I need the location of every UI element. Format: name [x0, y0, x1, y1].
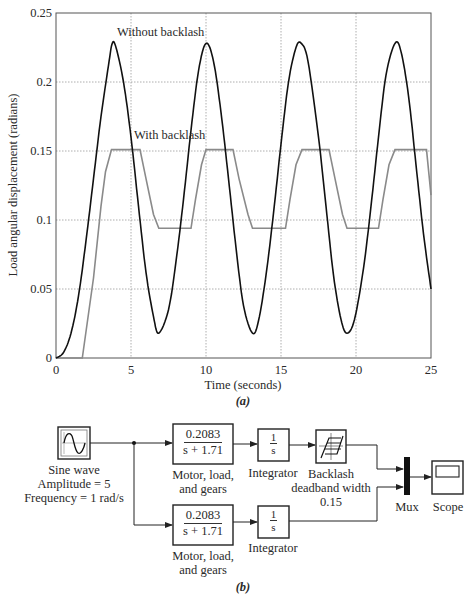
tf-bottom-numerator: 0.2083: [184, 508, 222, 524]
tf-top-label-2: and gears: [179, 482, 227, 496]
tf-top-fraction: 0.2083 s + 1.71: [173, 427, 233, 457]
backlash-label-1: Backlash: [308, 467, 354, 481]
integrator-top-numerator: 1: [270, 431, 278, 444]
tf-bottom-label-1: Motor, load,: [172, 549, 234, 563]
scope-block[interactable]: [432, 461, 463, 494]
tf-top-label-1: Motor, load,: [172, 468, 234, 482]
tf-top-denominator: s + 1.71: [183, 443, 223, 457]
sine-wave-block[interactable]: [58, 427, 90, 459]
sine-label-3: Frequency = 1 rad/s: [24, 491, 124, 505]
tf-top-numerator: 0.2083: [184, 427, 222, 443]
integrator-bottom-numerator: 1: [270, 508, 278, 521]
backlash-block[interactable]: [316, 430, 346, 463]
integrator-top-denominator: s: [271, 444, 275, 456]
scope-label: Scope: [433, 500, 464, 514]
sine-label-2: Amplitude = 5: [37, 477, 110, 491]
integrator-bottom-label: Integrator: [248, 541, 297, 555]
integrator-top-label: Integrator: [248, 466, 297, 480]
tf-bottom-fraction: 0.2083 s + 1.71: [173, 508, 233, 538]
backlash-label-2: deadband width: [291, 481, 371, 495]
sine-label-1: Sine wave: [48, 463, 100, 477]
signal-branch-to-tf-bottom: [134, 443, 172, 525]
backlash-label-3: 0.15: [320, 495, 342, 509]
caption-b: (b): [236, 580, 251, 594]
signal-backlash-to-mux: [346, 445, 403, 469]
mux-block[interactable]: [404, 457, 410, 495]
integrator-top-fraction: 1 s: [258, 431, 289, 456]
mux-label: Mux: [395, 500, 419, 514]
tf-bottom-label-2: and gears: [179, 563, 227, 577]
integrator-bottom-denominator: s: [271, 521, 275, 533]
tf-bottom-denominator: s + 1.71: [183, 524, 223, 538]
integrator-bottom-fraction: 1 s: [258, 508, 289, 533]
